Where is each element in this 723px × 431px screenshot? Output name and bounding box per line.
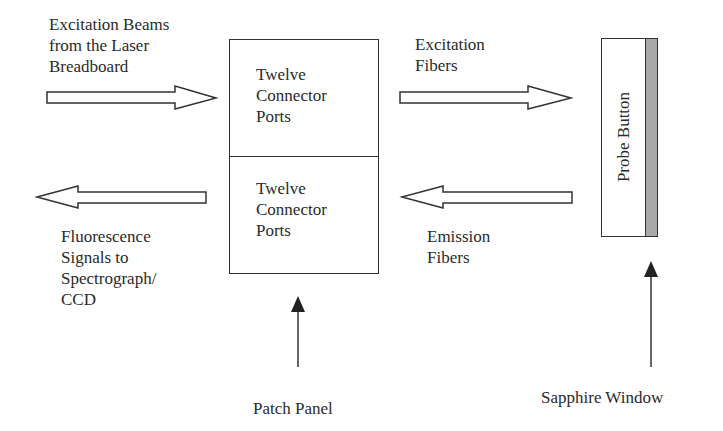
text-line: Connector [256, 199, 327, 220]
patch-panel-label: Patch Panel [253, 398, 333, 419]
label-line: Breadboard [49, 56, 169, 77]
emission-fibers-arrow [402, 186, 572, 208]
text-line: Twelve [256, 64, 327, 85]
label-line: Excitation Beams [49, 14, 169, 35]
label-line: Emission [427, 226, 490, 247]
fluorescence-label: Fluorescence Signals to Spectrograph/ CC… [61, 226, 156, 310]
text-line: Connector [256, 85, 327, 106]
excitation-beams-label: Excitation Beams from the Laser Breadboa… [49, 14, 169, 77]
bottom-section-text: Twelve Connector Ports [256, 178, 327, 241]
excitation-fibers-arrow [400, 86, 571, 109]
sapphire-window-label: Sapphire Window [541, 387, 663, 408]
label-line: from the Laser [49, 35, 169, 56]
excitation-beams-arrow [47, 86, 216, 109]
probe-button-label: Probe Button [614, 87, 634, 187]
label-line: Signals to [61, 247, 156, 268]
emission-fibers-label: Emission Fibers [427, 226, 490, 268]
probe-button: Probe Button [601, 38, 658, 237]
label-line: Spectrograph/ [61, 268, 156, 289]
label-line: CCD [61, 289, 156, 310]
excitation-fibers-label: Excitation Fibers [415, 34, 485, 76]
label-line: Fibers [427, 247, 490, 268]
patch-panel-bottom-section: Twelve Connector Ports [229, 156, 379, 274]
label-line: Excitation [415, 34, 485, 55]
fluorescence-arrow [37, 186, 206, 208]
text-line: Ports [256, 106, 327, 127]
top-section-text: Twelve Connector Ports [256, 64, 327, 127]
label-line: Fibers [415, 55, 485, 76]
patch-panel-pointer-head [291, 296, 305, 312]
text-line: Ports [256, 220, 327, 241]
text-line: Twelve [256, 178, 327, 199]
sapphire-window-strip [645, 39, 657, 236]
sapphire-window-pointer-head [644, 261, 658, 277]
patch-panel-top-section: Twelve Connector Ports [229, 39, 379, 158]
label-line: Fluorescence [61, 226, 156, 247]
